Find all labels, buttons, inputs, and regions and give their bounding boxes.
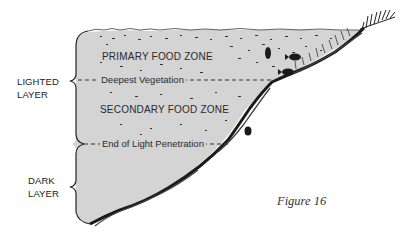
lake-cross-section-diagram xyxy=(0,0,416,240)
end-of-light-label: End of Light Penetration xyxy=(100,138,206,149)
figure-caption: Figure 16 xyxy=(277,194,326,209)
dark-layer-label-line2: LAYER xyxy=(28,188,59,200)
shore-grass-icon xyxy=(360,10,395,30)
lighted-layer-label-line2: LAYER xyxy=(17,89,48,101)
lighted-layer-label-line1: LIGHTED xyxy=(17,76,59,88)
deepest-vegetation-label: Deepest Vegetation xyxy=(99,74,186,85)
dark-layer-label-line1: DARK xyxy=(28,175,55,187)
primary-food-zone-label: PRIMARY FOOD ZONE xyxy=(102,51,213,62)
secondary-food-zone-label: SECONDARY FOOD ZONE xyxy=(100,104,229,115)
